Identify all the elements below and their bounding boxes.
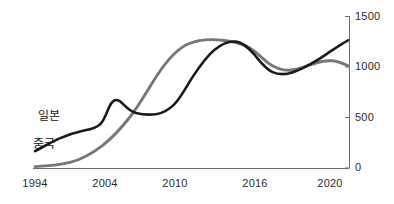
x-tick-label-2004: 2004 [85,177,125,189]
x-tick-label-2016: 2016 [235,177,275,189]
y-tick-label-1000: 1000 [355,60,380,72]
y-tick-label-1500: 1500 [355,10,380,22]
x-tick-label-2010: 2010 [155,177,195,189]
x-tick-label-1994: 1994 [15,177,55,189]
x-tick-label-2020: 2020 [310,177,350,189]
line-chart: 1500 1000 500 0 1994 2004 2010 2016 2020… [0,0,394,204]
y-tick-label-0: 0 [355,161,361,173]
series-line-japan [35,40,348,151]
y-tick-label-500: 500 [355,111,374,123]
series-label-japan: 일본 [38,106,60,123]
series-line-china [35,40,348,167]
chart-plot-area [0,0,394,204]
series-label-china: 중국 [33,134,55,151]
